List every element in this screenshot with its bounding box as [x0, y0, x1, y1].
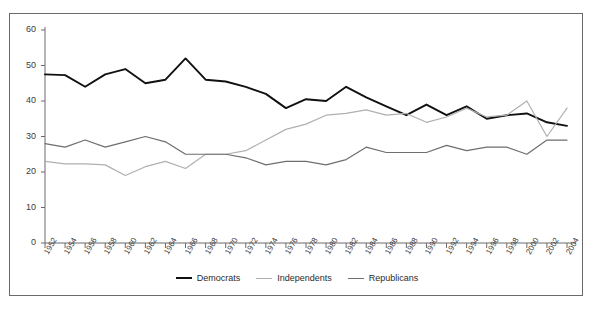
y-axis-tick-label: 0	[14, 238, 36, 247]
plot-area: 0102030405060195219541956195819601962196…	[10, 14, 584, 297]
legend-label: Democrats	[197, 273, 241, 283]
y-axis-tick-label: 10	[14, 203, 36, 212]
chart-canvas	[10, 14, 584, 297]
chart-figure: 0102030405060195219541956195819601962196…	[9, 13, 583, 296]
legend-item-independents[interactable]: Independents	[256, 273, 332, 283]
chart-legend: DemocratsIndependentsRepublicans	[10, 273, 584, 283]
legend-swatch-icon	[348, 278, 364, 279]
series-line-democrats	[45, 58, 567, 125]
y-axis-tick-label: 40	[14, 96, 36, 105]
legend-swatch-icon	[176, 277, 192, 279]
legend-swatch-icon	[256, 278, 272, 279]
y-axis-tick-label: 50	[14, 61, 36, 70]
y-axis-tick-label: 30	[14, 132, 36, 141]
y-axis-tick-label: 60	[14, 25, 36, 34]
series-line-independents	[45, 101, 567, 176]
legend-item-republicans[interactable]: Republicans	[348, 273, 419, 283]
legend-item-democrats[interactable]: Democrats	[176, 273, 241, 283]
series-line-republicans	[45, 137, 567, 165]
legend-label: Independents	[277, 273, 332, 283]
legend-label: Republicans	[369, 273, 419, 283]
y-axis-tick-label: 20	[14, 167, 36, 176]
